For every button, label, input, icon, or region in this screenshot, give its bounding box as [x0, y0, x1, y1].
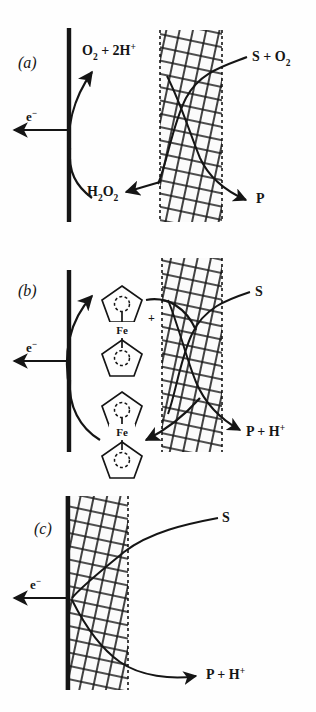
ferrocenium-charge-b: + — [148, 311, 155, 325]
enzyme-electrode-figure: (a) e− O2 + 2H+ H2O2 S + O2 P (b) e− — [0, 0, 316, 712]
product-label-a: P — [256, 191, 265, 206]
product-proton-label-c: P + H+ — [206, 666, 245, 682]
substrate-label-c: S — [222, 510, 230, 525]
iron-label-reduced-b: Fe — [116, 426, 128, 438]
substrate-label-b: S — [255, 284, 263, 299]
membrane-b — [162, 258, 222, 452]
panel-b-label: (b) — [18, 282, 37, 300]
panel-a-label: (a) — [18, 54, 37, 72]
figure-background — [0, 0, 316, 712]
product-proton-label-b: P + H+ — [246, 423, 285, 439]
panel-c-label: (c) — [34, 520, 52, 538]
membrane-a — [160, 30, 222, 222]
iron-label-oxidised-b: Fe — [116, 324, 128, 336]
